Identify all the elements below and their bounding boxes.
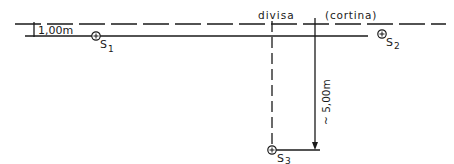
depth-label: ~ 5,00m	[320, 79, 332, 125]
point-s2: S 2	[378, 30, 400, 51]
arrow-down-icon	[312, 142, 318, 150]
point-index: 1	[108, 44, 114, 54]
point-s1: S 1	[92, 32, 114, 54]
point-letter: S	[386, 36, 393, 49]
point-letter: S	[100, 38, 107, 51]
point-index: 3	[285, 156, 291, 164]
offset-label: 1,00m	[38, 24, 73, 37]
point-letter: S	[277, 152, 284, 164]
divisa-label: divisa	[258, 9, 295, 21]
point-s3: S 3	[268, 146, 291, 164]
site-diagram: 1,00m S 1 divisa (cortina) ~ 5,00m S 2 S…	[0, 0, 454, 164]
point-index: 2	[394, 41, 400, 51]
cortina-label: (cortina)	[325, 9, 377, 21]
